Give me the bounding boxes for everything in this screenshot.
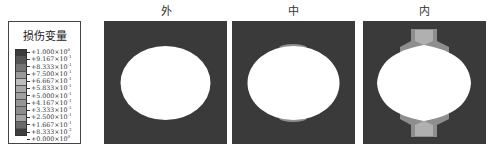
colorbar-segment xyxy=(16,79,26,86)
damage-legend: 损伤变量 +1.000×100+9.167×10-1+8.333×10-1+7.… xyxy=(8,21,81,144)
legend-colorbar xyxy=(15,49,27,136)
colorbar-segment xyxy=(16,115,26,122)
damage-panel-middle xyxy=(232,21,355,144)
colorbar-segment xyxy=(16,107,26,114)
legend-title: 损伤变量 xyxy=(9,27,80,43)
damage-panel-outer xyxy=(104,21,227,144)
colorbar-segment xyxy=(16,72,26,79)
colorbar-segment xyxy=(16,64,26,71)
colorbar-segment xyxy=(16,100,26,107)
colorbar-segment xyxy=(16,93,26,100)
damage-panel-inner xyxy=(363,21,486,144)
legend-tick-label: +0.000×100 xyxy=(27,133,70,142)
colorbar-segment xyxy=(16,86,26,93)
panel-title-inner: 内 xyxy=(409,2,439,18)
tunnel-opening-outer xyxy=(104,21,227,144)
tunnel-opening-middle xyxy=(232,21,355,144)
panel-title-middle: 中 xyxy=(278,2,308,18)
colorbar-segment xyxy=(16,57,26,64)
colorbar-segment xyxy=(16,122,26,129)
panel-title-outer: 外 xyxy=(151,2,181,18)
colorbar-segment xyxy=(16,50,26,57)
colorbar-segment xyxy=(16,129,26,135)
tunnel-opening-inner xyxy=(363,21,486,144)
legend-ticks: +1.000×100+9.167×10-1+8.333×10-1+7.500×1… xyxy=(27,46,82,140)
